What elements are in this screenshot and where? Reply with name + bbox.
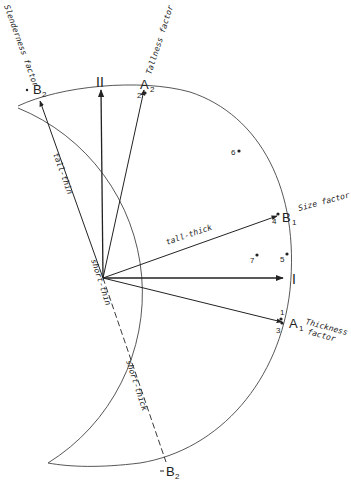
factor-diagram: II I A 2 Tallness factor B 2 Slenderness… [0, 0, 351, 489]
B2-bottom-label: B 2 [160, 464, 180, 481]
svg-text:7: 7 [250, 256, 255, 265]
svg-text:1: 1 [299, 324, 304, 333]
tall-thin-label: tall-thin [51, 152, 74, 196]
axis-II-vector [101, 90, 103, 278]
svg-text:B: B [166, 464, 175, 479]
slenderness-factor-label: Slenderness factor [2, 4, 40, 89]
svg-text:B: B [282, 210, 291, 225]
tallness-factor-label: Tallness factor [144, 4, 175, 76]
svg-text:2: 2 [150, 85, 155, 94]
svg-text:A: A [140, 77, 149, 92]
B1-label: B 1 [282, 210, 297, 227]
svg-text:5: 5 [280, 255, 285, 264]
point-4: 4 [272, 212, 280, 226]
point-5: 5 [280, 252, 289, 264]
short-thin-label: short-thin [89, 258, 112, 307]
axis-I-label: I [292, 271, 296, 287]
point-1: 1 [279, 308, 285, 321]
svg-text:3: 3 [276, 326, 281, 335]
svg-text:A: A [289, 316, 298, 331]
A1-label: A 1 [289, 316, 304, 333]
A1-vector [103, 278, 282, 322]
unit-circle-arc [18, 108, 142, 463]
size-factor-label: Size factor [297, 190, 351, 212]
B1-vector [103, 216, 277, 278]
svg-text:2: 2 [42, 90, 47, 99]
point-7: 7 [250, 253, 259, 265]
svg-text:2: 2 [137, 91, 142, 100]
point-6: 6 [231, 148, 241, 157]
axis-II-label: II [96, 74, 104, 90]
svg-text:2: 2 [175, 472, 180, 481]
svg-text:4: 4 [272, 217, 277, 226]
short-thick-label: short-thick [124, 359, 149, 412]
tall-thick-label: tall-thick [165, 223, 214, 247]
svg-text:6: 6 [231, 148, 236, 157]
svg-text:1: 1 [292, 218, 297, 227]
unit-circle-arc-main [18, 85, 292, 466]
svg-text:1: 1 [280, 308, 285, 317]
A2-label: A 2 [140, 77, 155, 94]
